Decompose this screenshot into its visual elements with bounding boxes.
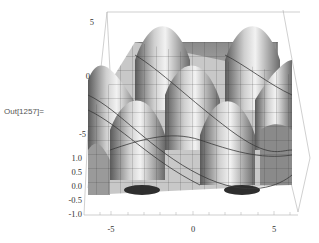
svg-text:-5: -5: [79, 129, 86, 139]
surface-plot-3d[interactable]: 1.0 0.5 0.0 -0.5 -1.0 5 0 -5 -5 0 5: [0, 0, 319, 243]
x-axis-ticks: [100, 211, 290, 215]
svg-text:0.5: 0.5: [71, 167, 82, 177]
svg-text:-5: -5: [107, 224, 114, 234]
svg-text:-0.5: -0.5: [69, 195, 82, 205]
svg-text:0: 0: [86, 71, 90, 81]
x-axis-labels: -5 0 5: [107, 224, 276, 234]
svg-text:0: 0: [191, 224, 195, 234]
svg-text:1.0: 1.0: [71, 153, 82, 163]
svg-text:0.0: 0.0: [71, 181, 82, 191]
svg-text:5: 5: [272, 224, 276, 234]
z-axis-labels: 1.0 0.5 0.0 -0.5 -1.0: [69, 153, 82, 219]
svg-text:-1.0: -1.0: [69, 209, 82, 219]
svg-text:5: 5: [90, 17, 94, 27]
